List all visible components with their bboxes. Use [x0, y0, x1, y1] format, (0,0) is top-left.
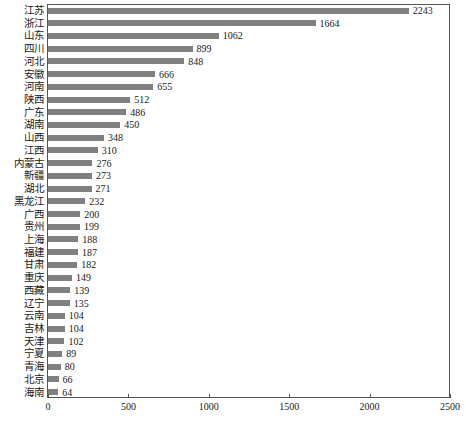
category-label: 江苏	[0, 4, 44, 17]
x-axis-tick-label: 2500	[440, 401, 460, 412]
bar	[48, 262, 77, 268]
category-label: 黑龙江	[0, 195, 44, 208]
x-axis: 05001000150020002500	[47, 398, 450, 422]
category-label: 浙江	[0, 17, 44, 30]
bar-value-label: 512	[134, 93, 149, 106]
x-axis-tick-label: 500	[121, 401, 136, 412]
category-label: 重庆	[0, 271, 44, 284]
bar-row: 江西310	[0, 144, 466, 157]
bar-value-label: 655	[157, 80, 172, 93]
category-label: 江西	[0, 144, 44, 157]
bar	[48, 173, 92, 179]
bar-row: 青海80	[0, 360, 466, 373]
bar-rows-container: 江苏2243浙江1664山东1062四川899河北848安徽666河南655陕西…	[0, 4, 466, 398]
bar-value-label: 182	[81, 258, 96, 271]
bar	[48, 160, 92, 166]
category-label: 海南	[0, 386, 44, 399]
bar-value-label: 899	[197, 42, 212, 55]
x-axis-tick-label: 1000	[199, 401, 219, 412]
category-label: 福建	[0, 246, 44, 259]
bar-value-label: 135	[74, 297, 89, 310]
bar	[48, 313, 65, 319]
bar-row: 西藏139	[0, 284, 466, 297]
x-axis-tick-mark	[48, 394, 49, 398]
category-label: 湖南	[0, 118, 44, 131]
bar-value-label: 66	[63, 373, 73, 386]
bar	[48, 71, 155, 77]
x-axis-tick-mark	[128, 394, 129, 398]
bar-row: 甘肃182	[0, 258, 466, 271]
bar-value-label: 232	[89, 195, 104, 208]
bar	[48, 135, 104, 141]
bar-row: 云南104	[0, 309, 466, 322]
bar	[48, 109, 126, 115]
category-label: 甘肃	[0, 258, 44, 271]
bar-row: 山东1062	[0, 29, 466, 42]
bar-value-label: 104	[69, 322, 84, 335]
bar	[48, 122, 120, 128]
bar-row: 上海188	[0, 233, 466, 246]
category-label: 河南	[0, 80, 44, 93]
bar-row: 浙江1664	[0, 17, 466, 30]
bar-row: 河南655	[0, 80, 466, 93]
bar-value-label: 200	[84, 208, 99, 221]
bar-value-label: 104	[69, 309, 84, 322]
x-axis-tick-label: 1500	[279, 401, 299, 412]
category-label: 山西	[0, 131, 44, 144]
bar-value-label: 89	[66, 347, 76, 360]
bar	[48, 20, 316, 26]
bar	[48, 376, 59, 382]
bar-value-label: 310	[102, 144, 117, 157]
bar	[48, 58, 184, 64]
bar-row: 贵州199	[0, 220, 466, 233]
bar-value-label: 450	[124, 118, 139, 131]
category-label: 河北	[0, 55, 44, 68]
bar	[48, 97, 130, 103]
bar-value-label: 276	[96, 157, 111, 170]
bar-value-label: 199	[84, 220, 99, 233]
bar	[48, 224, 80, 230]
category-label: 陕西	[0, 93, 44, 106]
bar-row: 四川899	[0, 42, 466, 55]
bar-value-label: 139	[74, 284, 89, 297]
bar-value-label: 271	[96, 182, 111, 195]
bar-value-label: 848	[188, 55, 203, 68]
bar-row: 福建187	[0, 246, 466, 259]
bar-row: 吉林104	[0, 322, 466, 335]
x-axis-tick-mark	[289, 394, 290, 398]
bar-value-label: 2243	[413, 4, 433, 17]
bar-row: 黑龙江232	[0, 195, 466, 208]
category-label: 内蒙古	[0, 157, 44, 170]
bar	[48, 287, 70, 293]
category-label: 辽宁	[0, 297, 44, 310]
bar	[48, 8, 409, 14]
x-axis-tick-mark	[209, 394, 210, 398]
category-label: 青海	[0, 360, 44, 373]
bar-value-label: 188	[82, 233, 97, 246]
bar-row: 湖北271	[0, 182, 466, 195]
bar-row: 陕西512	[0, 93, 466, 106]
category-label: 安徽	[0, 68, 44, 81]
bar	[48, 351, 62, 357]
bar-value-label: 64	[62, 386, 72, 399]
bar-row: 山西348	[0, 131, 466, 144]
bar-row: 安徽666	[0, 68, 466, 81]
bar-value-label: 102	[68, 335, 83, 348]
bar	[48, 326, 65, 332]
bar-value-label: 1062	[223, 29, 243, 42]
bar-value-label: 666	[159, 68, 174, 81]
bar	[48, 338, 64, 344]
category-label: 山东	[0, 29, 44, 42]
category-label: 宁夏	[0, 347, 44, 360]
bar-row: 新疆273	[0, 169, 466, 182]
bar	[48, 364, 61, 370]
bar-row: 宁夏89	[0, 347, 466, 360]
bar-value-label: 1664	[320, 17, 340, 30]
bar-row: 辽宁135	[0, 297, 466, 310]
category-label: 广西	[0, 208, 44, 221]
bar-row: 广西200	[0, 208, 466, 221]
bar-value-label: 273	[96, 169, 111, 182]
bar	[48, 389, 58, 395]
category-label: 广东	[0, 106, 44, 119]
category-label: 云南	[0, 309, 44, 322]
